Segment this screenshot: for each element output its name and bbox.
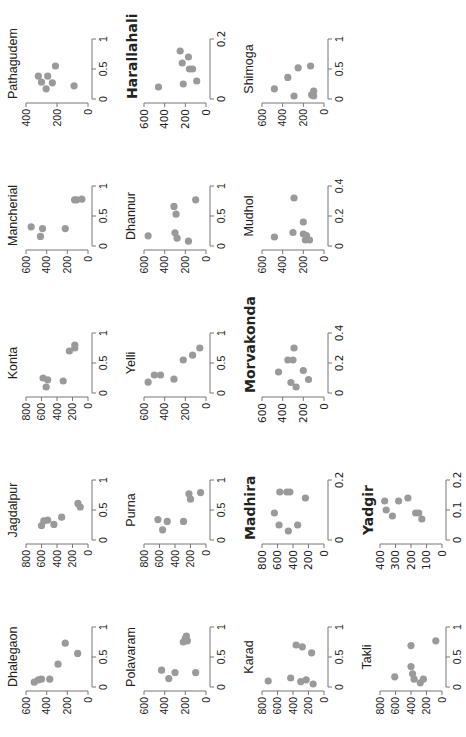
svg-text:0: 0 [200,697,212,703]
scatter-plot: 800600400200000.51 [240,588,353,735]
data-point [287,674,294,681]
svg-text:200: 200 [302,697,314,715]
scatter-panel-shimoga: Shimoga600400200000.51 [240,0,353,147]
data-point [192,196,199,203]
data-point [404,494,411,501]
svg-text:0: 0 [318,697,330,703]
data-point [159,526,166,533]
svg-text:0: 0 [97,537,109,543]
svg-text:0: 0 [200,109,212,116]
data-point [290,194,297,201]
svg-text:0.5: 0.5 [97,209,109,224]
svg-text:0.2: 0.2 [451,472,463,489]
data-point [71,341,78,348]
scatter-plot: 800600400200000.51 [358,588,466,735]
data-point [43,383,50,390]
data-point [183,632,190,639]
svg-text:400: 400 [276,256,288,274]
svg-text:400: 400 [158,403,170,421]
data-point [305,376,312,383]
svg-text:0: 0 [82,256,94,262]
data-point [295,64,302,71]
svg-text:200: 200 [179,403,191,421]
data-point [276,488,283,495]
svg-text:200: 200 [66,550,78,568]
scatter-panel-harallahali: Harallahali600400200000.2 [122,0,235,147]
scatter-plot: 800600400200000.51 [4,294,117,441]
svg-text:1: 1 [97,36,109,42]
svg-text:600: 600 [35,550,47,568]
data-point [171,669,178,676]
data-point [70,82,77,89]
svg-text:800: 800 [138,550,150,568]
scatter-plot: 400300200100000.10.2 [358,441,466,588]
svg-text:800: 800 [20,550,32,568]
data-point [189,65,196,72]
data-point [310,680,317,687]
data-point [391,673,398,680]
data-point [74,500,81,507]
data-point [192,669,199,676]
data-point [60,377,67,384]
scatter-panel-konta: Konta800600400200000.51 [4,294,117,441]
svg-text:600: 600 [256,256,268,274]
data-point [285,527,292,534]
data-point [39,225,46,232]
data-point [185,490,192,497]
data-point [28,223,35,230]
data-point [290,92,297,99]
svg-text:0: 0 [318,550,330,557]
scatter-panel-madhira: Madhira800600400200000.2 [240,441,353,588]
svg-text:0.4: 0.4 [333,179,345,194]
svg-text:600: 600 [256,403,268,423]
svg-text:400: 400 [40,697,52,715]
svg-text:400: 400 [405,697,417,715]
data-point [39,374,46,381]
scatter-plot: 800600400200000.51 [122,441,235,588]
svg-text:400: 400 [40,256,52,274]
scatter-plot: 800600400200000.2 [240,441,353,588]
svg-text:400: 400 [276,403,288,423]
data-point [395,497,402,504]
data-point [158,667,165,674]
svg-text:0.5: 0.5 [333,650,345,665]
data-point [271,509,278,516]
data-point [170,203,177,210]
data-point [62,640,69,647]
data-point [179,59,186,66]
svg-text:0: 0 [333,243,345,249]
data-point [172,211,179,218]
svg-text:200: 200 [184,550,196,568]
scatter-plot: 600400200000.20.4 [240,147,353,294]
svg-text:1: 1 [97,183,109,189]
scatter-panel-polavaram: Polavaram600400200000.51 [122,588,235,735]
svg-text:200: 200 [297,109,309,127]
data-point [164,518,171,525]
svg-text:0: 0 [97,243,109,249]
scatter-panel-purna: Purna800600400200000.51 [122,441,235,588]
scatter-panel-dhannur: Dhannur600400200000.51 [122,147,235,294]
data-point [284,74,291,81]
data-point [185,53,192,60]
data-point [415,509,422,516]
data-point [310,88,317,95]
scatter-plot: 600400200000.51 [122,147,235,294]
svg-text:1: 1 [215,183,227,189]
svg-text:0: 0 [82,109,94,115]
scatter-plot: 600400200000.51 [122,294,235,441]
data-point [193,77,200,84]
data-point [50,521,57,528]
data-point [54,661,61,668]
svg-text:0: 0 [200,256,212,262]
svg-text:0.5: 0.5 [451,650,463,665]
svg-text:0: 0 [200,550,212,556]
svg-text:600: 600 [138,256,150,274]
svg-text:0: 0 [215,96,227,103]
svg-text:200: 200 [61,697,73,715]
svg-text:400: 400 [287,550,299,570]
data-point [407,642,414,649]
svg-text:0: 0 [97,390,109,396]
scatter-panel-mancherial: Mancherial600400200000.51 [4,147,117,294]
data-point [180,356,187,363]
scatter-plot: 400200000.51 [4,0,117,147]
